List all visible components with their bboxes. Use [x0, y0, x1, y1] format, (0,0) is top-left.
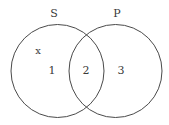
venn-circles	[0, 0, 169, 125]
circle-s	[11, 25, 104, 118]
region-label-3: 3	[118, 65, 125, 76]
venn-diagram: S P x 1 2 3	[0, 0, 169, 125]
region-label-2: 2	[83, 65, 90, 76]
region-label-1: 1	[49, 65, 56, 76]
set-label-p: P	[113, 8, 120, 19]
x-mark: x	[35, 46, 41, 56]
set-label-s: S	[50, 8, 58, 19]
